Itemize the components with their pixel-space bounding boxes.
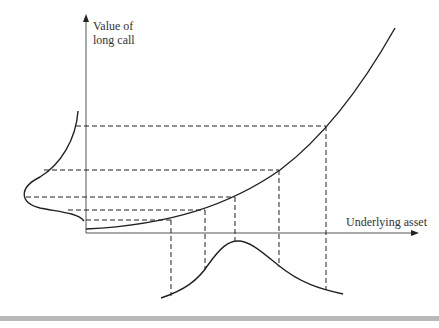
call-value-curve	[86, 28, 395, 229]
bottom-divider	[0, 316, 439, 321]
x-axis-label: Underlying asset	[346, 215, 427, 229]
asset-distribution	[161, 241, 343, 298]
diagram-canvas	[0, 0, 439, 328]
call-value-distribution	[24, 111, 84, 221]
y-axis-label-line2: long call	[93, 33, 135, 47]
y-axis-label-line1: Value of	[93, 19, 135, 33]
y-axis-label: Value of long call	[93, 19, 135, 47]
